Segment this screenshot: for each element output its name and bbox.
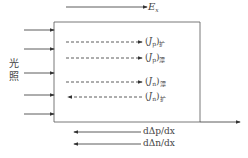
gradient-label-p: dΔp/dx (143, 126, 175, 136)
current-label-p-diffusion: (Jp)扩 (145, 36, 165, 48)
illumination-label: 光 照 (9, 57, 21, 83)
diagram-canvas (0, 0, 248, 158)
gradient-label-n: dΔn/dx (143, 138, 175, 148)
current-label-n-drift: (Jn)漂 (145, 76, 166, 88)
field-label: Ex (148, 1, 159, 13)
current-label-n-diffusion: (Jn)扩 (145, 91, 166, 103)
current-label-p-drift: (Jp)漂 (145, 52, 165, 64)
sample-box (54, 22, 200, 122)
